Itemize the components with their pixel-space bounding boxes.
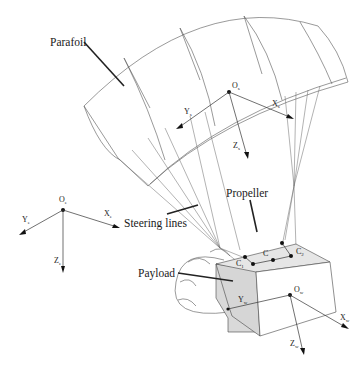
payload-front-face — [256, 262, 336, 336]
earth-y-label: Ye — [22, 215, 31, 225]
parafoil-label: Parafoil — [50, 36, 86, 48]
parafoil-y-label: Ys — [184, 107, 192, 117]
parafoil-frame-axes: Os Ys Xs Zs — [176, 81, 294, 159]
parafoil-z-label: Zs — [233, 141, 240, 151]
steering-lines-label: Steering lines — [124, 217, 187, 230]
earth-x-label: Xe — [104, 209, 113, 219]
parafoil-origin-label: Os — [232, 81, 240, 91]
c-label: C — [263, 249, 268, 258]
suspension-lines — [120, 86, 320, 262]
parafoil-x-label: Xs — [272, 99, 280, 109]
callouts: Parafoil Propeller Steering lines Payloa… — [50, 36, 268, 281]
parafoil-system-diagram: C1 C C2 Os Ys Xs Zs Oe Ye Xe Ze — [0, 0, 364, 372]
earth-frame-axes: Oe Ye Xe Ze — [19, 195, 120, 273]
payload-z-label: Zw — [290, 339, 299, 349]
payload-x-label: Xw — [340, 313, 350, 323]
earth-origin-label: Oe — [59, 195, 68, 205]
payload-label: Payload — [138, 267, 175, 280]
propeller-label: Propeller — [226, 187, 268, 200]
earth-z-label: Ze — [54, 256, 62, 266]
payload-box — [175, 244, 336, 336]
